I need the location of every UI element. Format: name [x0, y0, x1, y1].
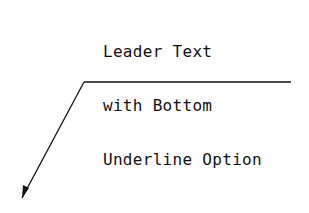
leader-line: [22, 82, 84, 198]
leader-graphic: [0, 0, 309, 213]
drawing-canvas: Leader Text with Bottom Underline Option: [0, 0, 309, 213]
